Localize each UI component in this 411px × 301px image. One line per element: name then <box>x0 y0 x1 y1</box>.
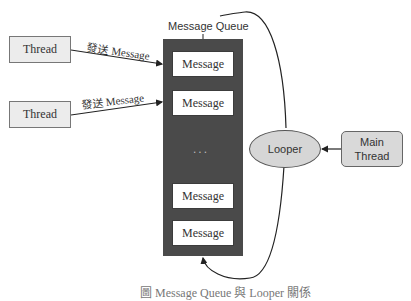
queue-title: Message Queue <box>168 20 249 32</box>
message-label: Message <box>182 189 224 204</box>
looper-label: Looper <box>268 143 302 155</box>
message-label: Message <box>182 57 224 72</box>
main-thread-line2: Thread <box>355 149 390 163</box>
main-thread-box: Main Thread <box>341 131 403 167</box>
thread-label: Thread <box>23 107 57 122</box>
thread-box-2: Thread <box>9 101 71 128</box>
message-item: Message <box>172 90 234 116</box>
thread-label: Thread <box>23 42 57 57</box>
queue-ellipsis: ... <box>193 142 209 156</box>
message-item: Message <box>172 51 234 77</box>
main-thread-line1: Main <box>355 135 390 149</box>
looper-ellipse: Looper <box>249 130 321 168</box>
message-item: Message <box>172 183 234 209</box>
figure-caption: 圖 Message Queue 與 Looper 關係 <box>140 283 311 301</box>
message-label: Message <box>182 96 224 111</box>
thread-box-1: Thread <box>9 36 71 63</box>
message-label: Message <box>182 226 224 241</box>
message-item: Message <box>172 220 234 246</box>
